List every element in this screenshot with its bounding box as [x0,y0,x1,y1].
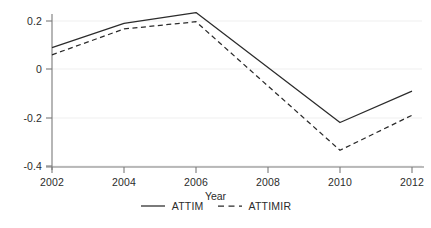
legend-entry-attimir: ATTIMIR [217,201,292,212]
y-tick-label-0: 0.2 [8,16,42,27]
gridlines [52,21,422,166]
x-tick-label-2002: 2002 [22,177,82,188]
series-line-attim [52,13,412,123]
series-line-attimir [52,22,412,151]
legend-label-attim: ATTIM [172,201,204,212]
series-lines [52,13,412,151]
line-chart: 0.2 0 -0.2 -0.4 2002 2004 2006 2008 2010… [0,0,431,228]
x-tick-label-2006: 2006 [166,177,226,188]
x-axis [46,167,424,173]
x-tick-label-2004: 2004 [94,177,154,188]
y-tick-label-3: -0.4 [8,161,42,172]
y-tick-label-2: -0.2 [8,113,42,124]
x-axis-title: Year [0,191,431,202]
y-axis [46,14,52,170]
legend-swatch-solid-icon [140,201,166,211]
legend-label-attimir: ATTIMIR [249,201,292,212]
x-tick-label-2008: 2008 [238,177,298,188]
legend-swatch-dashed-icon [217,201,243,211]
x-tick-label-2012: 2012 [382,177,431,188]
x-tick-label-2010: 2010 [310,177,370,188]
y-tick-label-1: 0 [8,64,42,75]
legend-entry-attim: ATTIM [140,201,204,212]
chart-legend: ATTIM ATTIMIR [0,201,431,212]
